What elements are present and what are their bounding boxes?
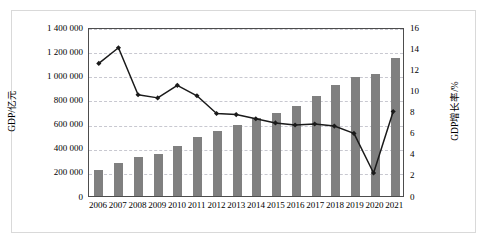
data-point-marker <box>234 112 239 117</box>
x-axis-tick-labels: 2006200720082009201020112012201320142015… <box>88 200 404 216</box>
data-point-marker <box>292 122 297 127</box>
right-axis-tick-label: 0 <box>410 193 415 202</box>
left-axis-tick-label: 1 200 000 <box>47 48 83 57</box>
left-axis-tick-label: 800 000 <box>54 96 83 105</box>
data-point-marker <box>332 123 337 128</box>
data-point-marker <box>253 116 258 121</box>
left-axis-tick-label: 600 000 <box>54 120 83 129</box>
data-point-marker <box>273 120 278 125</box>
gdp-growth-chart-figure: 0200 000400 000600 000800 0001 000 0001 … <box>0 0 491 249</box>
right-axis-tick-labels: 0246810121416 <box>410 0 434 249</box>
right-axis-tick-label: 8 <box>410 108 415 117</box>
plot-area <box>88 28 404 197</box>
left-axis-tick-labels: 0200 000400 000600 000800 0001 000 0001 … <box>28 0 83 249</box>
left-axis-tick-label: 400 000 <box>54 144 83 153</box>
left-axis-title: GDP/亿元 <box>4 81 18 141</box>
left-axis-tick-label: 0 <box>79 193 84 202</box>
right-axis-tick-label: 10 <box>410 87 419 96</box>
data-point-marker <box>391 109 396 114</box>
right-axis-tick-label: 16 <box>410 24 419 33</box>
right-axis-tick-label: 4 <box>410 150 415 159</box>
data-point-marker <box>312 121 317 126</box>
right-axis-tick-label: 14 <box>410 45 419 54</box>
data-point-marker <box>135 92 140 97</box>
growth-rate-line <box>99 48 393 173</box>
right-axis-tick-label: 6 <box>410 129 415 138</box>
data-point-marker <box>351 131 356 136</box>
right-axis-tick-label: 12 <box>410 66 419 75</box>
data-point-marker <box>371 170 376 175</box>
left-axis-tick-label: 1 400 000 <box>47 24 83 33</box>
right-axis-tick-label: 2 <box>410 171 415 180</box>
x-axis-tick-label: 2021 <box>381 200 407 211</box>
right-axis-title: GDP增长率/% <box>447 74 461 148</box>
left-axis-tick-label: 200 000 <box>54 168 83 177</box>
left-axis-tick-label: 1 000 000 <box>47 72 83 81</box>
line-series <box>89 29 403 196</box>
